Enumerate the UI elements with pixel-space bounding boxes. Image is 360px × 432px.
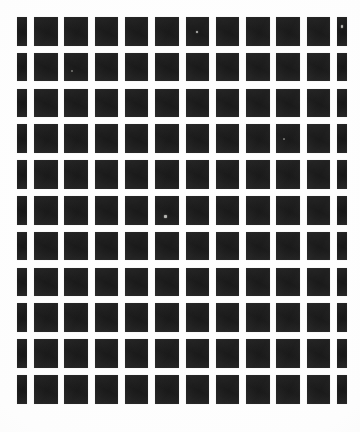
checker-tile-r8-c10 [307,303,331,332]
checker-tile-r5-c1 [34,196,58,225]
checker-tile-r10-c3 [95,375,119,404]
checker-tile-r1-c2 [64,53,88,82]
checker-tile-r9-c11 [337,339,347,368]
checker-tile-r3-c1 [34,124,58,153]
checker-tile-r1-c5 [155,53,179,82]
checker-tile-r9-c8 [246,339,270,368]
checker-tile-r10-c11 [337,375,347,404]
checker-tile-r10-c0 [17,375,27,404]
checker-tile-r8-c3 [95,303,119,332]
checker-tile-r3-c5 [155,124,179,153]
checker-tile-r2-c3 [95,89,119,118]
checker-tile-r10-c5 [155,375,179,404]
checker-tile-r6-c3 [95,232,119,261]
checker-tile-r0-c4 [125,17,149,46]
checker-tile-r8-c8 [246,303,270,332]
checker-tile-r5-c8 [246,196,270,225]
checker-tile-r0-c8 [246,17,270,46]
checker-tile-r4-c2 [64,160,88,189]
checker-tile-r3-c3 [95,124,119,153]
checker-tile-r1-c7 [216,53,240,82]
checker-tile-r7-c11 [337,268,347,297]
checker-tile-r1-c11 [337,53,347,82]
checker-tile-r9-c10 [307,339,331,368]
checker-tile-r8-c0 [17,303,27,332]
checker-tile-r6-c10 [307,232,331,261]
checkerboard-pattern-image [0,0,360,432]
checker-tile-r5-c4 [125,196,149,225]
speck-row1-col2-icon [71,70,73,72]
checker-tile-r3-c7 [216,124,240,153]
checker-tile-r0-c11 [337,17,347,46]
checker-tile-r5-c2 [64,196,88,225]
checker-tile-r7-c5 [155,268,179,297]
checker-tile-r5-c10 [307,196,331,225]
checker-tile-r6-c6 [186,232,210,261]
checker-tile-r9-c5 [155,339,179,368]
checker-tile-r5-c6 [186,196,210,225]
checker-tile-r7-c4 [125,268,149,297]
checker-tile-r0-c5 [155,17,179,46]
checker-tile-r0-c9 [276,17,300,46]
checker-tile-r4-c8 [246,160,270,189]
checker-tile-r2-c1 [34,89,58,118]
checker-tile-r7-c6 [186,268,210,297]
checker-tile-r1-c3 [95,53,119,82]
checker-tile-r9-c9 [276,339,300,368]
checker-tile-r10-c4 [125,375,149,404]
checker-tile-r3-c9 [276,124,300,153]
checker-tile-r9-c0 [17,339,27,368]
checker-tile-r2-c8 [246,89,270,118]
checker-tile-r7-c10 [307,268,331,297]
checker-tile-r4-c7 [216,160,240,189]
checker-tile-r2-c0 [17,89,27,118]
checker-tile-r6-c2 [64,232,88,261]
checker-tile-r6-c4 [125,232,149,261]
checker-tile-r9-c3 [95,339,119,368]
checker-tile-r2-c9 [276,89,300,118]
checker-tile-r7-c8 [246,268,270,297]
checker-tile-r8-c4 [125,303,149,332]
checker-tile-r0-c0 [17,17,27,46]
checker-tile-r3-c4 [125,124,149,153]
checker-tile-r4-c9 [276,160,300,189]
checker-tile-r10-c1 [34,375,58,404]
checker-tile-r3-c0 [17,124,27,153]
checker-tile-r4-c6 [186,160,210,189]
checker-tile-r8-c9 [276,303,300,332]
checker-tile-r1-c10 [307,53,331,82]
checker-tile-r3-c11 [337,124,347,153]
speck-row0-col11-icon [341,25,344,28]
checker-tile-r10-c8 [246,375,270,404]
checker-tile-r9-c4 [125,339,149,368]
checker-tile-r1-c9 [276,53,300,82]
checker-tile-r2-c6 [186,89,210,118]
checker-tile-r0-c2 [64,17,88,46]
checker-tile-r7-c9 [276,268,300,297]
checker-tile-r6-c0 [17,232,27,261]
checker-tile-r10-c9 [276,375,300,404]
checker-tile-r6-c8 [246,232,270,261]
checker-tile-r4-c4 [125,160,149,189]
checker-tile-r6-c9 [276,232,300,261]
checker-tile-r10-c6 [186,375,210,404]
checker-tile-r8-c11 [337,303,347,332]
checker-tile-r7-c0 [17,268,27,297]
checker-tile-r4-c11 [337,160,347,189]
checker-tile-r7-c3 [95,268,119,297]
checker-tile-r8-c7 [216,303,240,332]
checker-tile-r9-c7 [216,339,240,368]
checker-tile-r2-c11 [337,89,347,118]
checker-tile-r5-c5 [155,196,179,225]
checker-tile-r6-c7 [216,232,240,261]
checker-tile-r5-c7 [216,196,240,225]
checker-tile-r4-c1 [34,160,58,189]
checker-tile-r4-c10 [307,160,331,189]
checker-tile-r10-c2 [64,375,88,404]
checker-tile-r3-c10 [307,124,331,153]
checker-tile-r4-c5 [155,160,179,189]
checker-tile-r3-c6 [186,124,210,153]
checker-tile-r5-c0 [17,196,27,225]
checker-tile-r5-c11 [337,196,347,225]
checker-tile-r3-c8 [246,124,270,153]
